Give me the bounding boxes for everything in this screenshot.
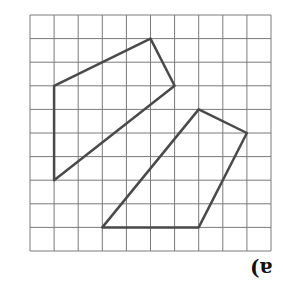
figure-label: a) — [250, 258, 272, 280]
grid-figure — [0, 0, 283, 286]
square-grid — [30, 15, 271, 251]
